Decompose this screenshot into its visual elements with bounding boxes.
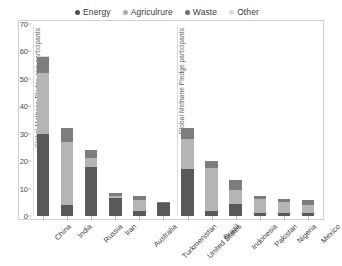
bar-segment-agriculrure bbox=[205, 168, 218, 211]
group-annotation: Global Methane Pledge participants bbox=[178, 28, 185, 134]
bar-segment-energy bbox=[229, 204, 242, 216]
legend-entry[interactable]: Agriculrure bbox=[123, 7, 173, 17]
legend-label: Waste bbox=[193, 7, 217, 17]
bar-segment-agriculrure bbox=[181, 139, 194, 169]
x-tick-mark bbox=[115, 216, 116, 220]
x-tick-label: India bbox=[76, 222, 94, 240]
bar-segment-waste bbox=[229, 180, 242, 190]
x-tick-mark bbox=[188, 216, 189, 220]
bar-segment-waste bbox=[181, 128, 194, 139]
legend-entry[interactable]: Other bbox=[229, 7, 259, 17]
bar-segment-energy bbox=[61, 205, 74, 216]
plot-area: 010203040506070 Global Methane Pledge no… bbox=[31, 24, 320, 216]
y-tick-label: 40 bbox=[20, 102, 28, 111]
bar-united-states[interactable] bbox=[181, 128, 194, 216]
x-tick-mark bbox=[163, 216, 164, 220]
bar-segment-agriculrure bbox=[61, 142, 74, 205]
y-tick-label: 0 bbox=[24, 212, 28, 221]
x-tick-mark bbox=[212, 216, 213, 220]
chart-legend: EnergyAgriculrureWasteOther bbox=[0, 4, 334, 20]
bar-segment-waste bbox=[37, 57, 50, 73]
y-tick-label: 60 bbox=[20, 47, 28, 56]
bar-iran[interactable] bbox=[109, 193, 122, 216]
x-tick-mark bbox=[284, 216, 285, 220]
group-divider bbox=[33, 26, 34, 216]
x-tick-label: China bbox=[53, 222, 73, 242]
legend-label: Energy bbox=[83, 7, 111, 17]
legend-swatch-icon bbox=[185, 10, 190, 15]
x-tick-mark bbox=[236, 216, 237, 220]
legend-swatch-icon bbox=[75, 10, 80, 15]
x-tick-mark bbox=[91, 216, 92, 220]
bar-segment-energy bbox=[181, 169, 194, 216]
bar-segment-energy bbox=[85, 167, 98, 216]
x-tick-mark bbox=[67, 216, 68, 220]
x-tick-mark bbox=[139, 216, 140, 220]
y-tick-label: 50 bbox=[20, 74, 28, 83]
legend-label: Other bbox=[237, 7, 259, 17]
y-tick-mark bbox=[28, 78, 31, 79]
bar-segment-waste bbox=[61, 128, 74, 142]
bar-india[interactable] bbox=[61, 128, 74, 216]
bar-nigeria[interactable] bbox=[278, 199, 291, 216]
bar-segment-agriculrure bbox=[229, 190, 242, 204]
x-tick-mark bbox=[308, 216, 309, 220]
bar-segment-agriculrure bbox=[133, 200, 146, 212]
bar-segment-agriculrure bbox=[278, 202, 291, 212]
y-tick-label: 70 bbox=[20, 20, 28, 29]
x-tick-label: Iran bbox=[123, 222, 139, 238]
x-tick-label: Mexico bbox=[319, 222, 342, 245]
bar-segment-agriculrure bbox=[85, 158, 98, 166]
y-tick-mark bbox=[28, 216, 31, 217]
x-tick-label: Russia bbox=[102, 222, 125, 245]
bar-segment-energy bbox=[37, 134, 50, 216]
legend-entry[interactable]: Energy bbox=[75, 7, 111, 17]
x-tick-label: Australia bbox=[152, 222, 179, 249]
x-tick-label: Indonesia bbox=[249, 222, 278, 251]
bar-pakistan[interactable] bbox=[254, 196, 267, 216]
bar-segment-energy bbox=[157, 203, 170, 216]
y-tick-mark bbox=[28, 133, 31, 134]
bar-segment-agriculrure bbox=[254, 199, 267, 213]
bar-segment-waste bbox=[205, 161, 218, 168]
y-tick-label: 10 bbox=[20, 184, 28, 193]
legend-entry[interactable]: Waste bbox=[185, 7, 217, 17]
bar-segment-energy bbox=[109, 198, 122, 216]
y-tick-mark bbox=[28, 188, 31, 189]
bar-segment-agriculrure bbox=[37, 73, 50, 133]
bar-brazil[interactable] bbox=[205, 161, 218, 216]
y-tick-label: 30 bbox=[20, 129, 28, 138]
bar-china[interactable] bbox=[37, 56, 50, 216]
y-tick-mark bbox=[28, 106, 31, 107]
y-tick-label: 20 bbox=[20, 157, 28, 166]
bar-segment-waste bbox=[85, 150, 98, 158]
legend-swatch-icon bbox=[123, 10, 128, 15]
bar-indonesia[interactable] bbox=[229, 180, 242, 216]
legend-swatch-icon bbox=[229, 10, 234, 15]
bar-segment-agriculrure bbox=[302, 205, 315, 214]
bar-mexico[interactable] bbox=[302, 200, 315, 216]
x-tick-mark bbox=[260, 216, 261, 220]
x-tick-label: Nigeria bbox=[295, 222, 318, 245]
legend-label: Agriculrure bbox=[131, 7, 173, 17]
bar-turkmenistan[interactable] bbox=[157, 202, 170, 216]
bar-russia[interactable] bbox=[85, 150, 98, 216]
y-tick-mark bbox=[28, 24, 31, 25]
x-tick-mark bbox=[43, 216, 44, 220]
y-tick-mark bbox=[28, 51, 31, 52]
y-tick-mark bbox=[28, 161, 31, 162]
group-divider bbox=[177, 26, 178, 216]
bar-australia[interactable] bbox=[133, 196, 146, 216]
